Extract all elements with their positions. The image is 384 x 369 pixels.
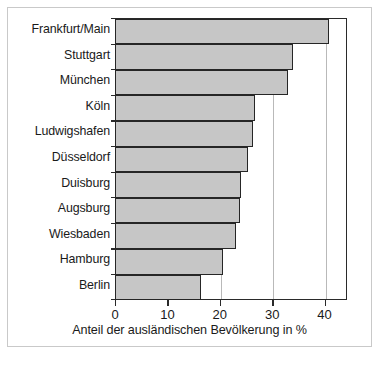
x-tick-label: 20 xyxy=(200,307,240,322)
x-axis-title: Anteil der ausländischen Bevölkerung in … xyxy=(7,323,372,338)
bar-koeln xyxy=(115,95,255,121)
bar-ludwigshafen xyxy=(115,121,253,147)
category-label: Berlin xyxy=(0,278,110,292)
bar-augsburg xyxy=(115,198,240,224)
x-tick-label: 10 xyxy=(147,307,187,322)
category-axis-labels: Frankfurt/Main Stuttgart München Köln Lu… xyxy=(0,18,110,300)
bar-wiesbaden xyxy=(115,223,236,249)
category-label: Frankfurt/Main xyxy=(0,22,110,36)
bar-frankfurt-main xyxy=(115,19,329,45)
bar-duisburg xyxy=(115,172,241,198)
bar-stuttgart xyxy=(115,44,293,70)
bar-duesseldorf xyxy=(115,147,248,173)
x-tick-label: 0 xyxy=(95,307,135,322)
category-label: Hamburg xyxy=(0,252,110,266)
x-tick xyxy=(220,300,221,306)
category-label: Wiesbaden xyxy=(0,227,110,241)
category-label: Ludwigshafen xyxy=(0,124,110,138)
category-label: Duisburg xyxy=(0,176,110,190)
category-label: Düsseldorf xyxy=(0,150,110,164)
category-label: Stuttgart xyxy=(0,48,110,62)
bottom-text-fragment xyxy=(9,359,209,368)
x-tick xyxy=(272,300,273,306)
x-tick xyxy=(115,300,116,306)
category-label: München xyxy=(0,73,110,87)
category-label: Köln xyxy=(0,99,110,113)
bar-hamburg xyxy=(115,249,223,275)
x-tick-label: 30 xyxy=(252,307,292,322)
x-tick xyxy=(167,300,168,306)
bar-berlin xyxy=(115,275,201,301)
bar-muenchen xyxy=(115,70,288,96)
category-label: Augsburg xyxy=(0,201,110,215)
bar-series xyxy=(115,18,347,300)
x-tick-label: 40 xyxy=(305,307,345,322)
x-tick xyxy=(325,300,326,306)
